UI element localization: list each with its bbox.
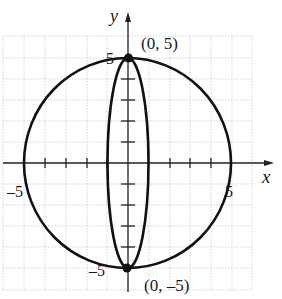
y-axis-label: y (108, 6, 118, 26)
tick-label-y-neg5: –5 (88, 262, 105, 279)
y-arrow-icon (125, 12, 131, 22)
tick-label-x-5: 5 (225, 183, 233, 200)
tick-label-x-neg5: –5 (6, 183, 23, 200)
point-bottom-label: (0, –5) (144, 276, 189, 295)
point-bottom (123, 264, 132, 273)
x-axis-label: x (261, 166, 271, 187)
graph-figure: y x (0, 5) (0, –5) 5 –5 –5 5 (0, 0, 282, 299)
point-top-label: (0, 5) (141, 34, 178, 53)
x-axis (3, 158, 274, 168)
point-top (124, 54, 133, 63)
tick-label-y-5: 5 (106, 50, 114, 67)
